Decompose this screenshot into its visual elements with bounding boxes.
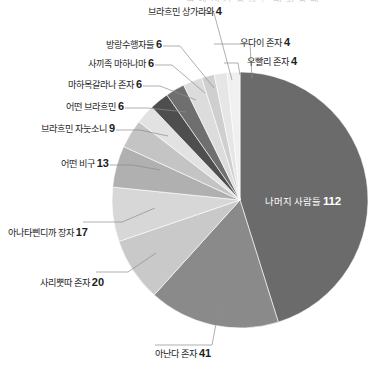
leader-line-sangarava (200, 13, 232, 80)
callout-upali: 우빨리 존자4 (247, 56, 297, 68)
callout-label: 방랑수행자들 (106, 40, 153, 50)
callout-value: 9 (109, 122, 115, 134)
callout-wanderers: 방랑수행자들6 (60, 39, 162, 51)
callout-value: 41 (199, 347, 211, 359)
callout-value: 6 (118, 100, 124, 112)
inner-label-value: 112 (323, 195, 341, 207)
callout-label: 브라흐민 자눗소니 (41, 124, 107, 134)
callout-value: 6 (156, 38, 162, 50)
callout-janussoni: 브라흐민 자눗소니9 (18, 123, 115, 135)
callout-sangarava: 브라흐민 상가라와4 (148, 6, 222, 18)
callout-label: 어떤 비구 (61, 159, 95, 169)
callout-label: 사리뿟따 존자 (40, 278, 90, 288)
callout-label: 아난다 존자 (155, 349, 197, 359)
callout-udayi: 우다이 존자4 (240, 37, 290, 49)
pie-chart-canvas (0, 0, 380, 368)
callout-value: 4 (216, 5, 222, 17)
callout-value: 17 (76, 226, 88, 238)
callout-value: 20 (92, 276, 104, 288)
callout-label: 우다이 존자 (240, 38, 282, 48)
callout-brahmin: 어떤 브라흐민6 (28, 101, 124, 113)
callout-mahanama: 사끼족 마하나마6 (52, 58, 154, 70)
callout-value: 4 (284, 36, 290, 48)
callout-value: 6 (136, 78, 142, 90)
inner-label-text: 나머지 사람들 (265, 196, 321, 207)
callout-label: 마하목갈라나 존자 (68, 80, 134, 90)
callout-value: 13 (97, 157, 109, 169)
callout-label: 사끼족 마하나마 (88, 59, 146, 69)
callout-anathapindika: 아나타삔디까 장자17 (8, 227, 88, 239)
callout-value: 4 (291, 55, 297, 67)
pie-chart-figure: 국 에 서 가 장 많 은 대 화 상 대 브라흐민 상가라와4 우다이 존자4… (0, 0, 380, 368)
callout-value: 6 (148, 57, 154, 69)
callout-bhikkhu: 어떤 비구13 (42, 158, 109, 170)
callout-label: 우빨리 존자 (247, 57, 289, 67)
callout-label: 아나타삔디까 장자 (8, 228, 74, 238)
callout-moggallana: 마하목갈라나 존자6 (38, 79, 142, 91)
callout-ananda: 아난다 존자41 (155, 348, 211, 360)
callout-sariputta: 사리뿟따 존자20 (40, 277, 104, 289)
callout-label: 브라흐민 상가라와 (148, 7, 214, 17)
slice-inner-label-remaining-people: 나머지 사람들112 (265, 194, 341, 208)
callout-label: 어떤 브라흐민 (66, 102, 116, 112)
